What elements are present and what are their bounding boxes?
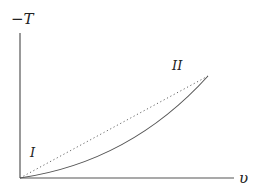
- y-axis-label: −T: [11, 10, 35, 28]
- point-label-II: II: [171, 58, 183, 73]
- point-label-I: I: [29, 145, 36, 160]
- thermodynamic-path-diagram: −T υ I II: [0, 0, 262, 187]
- dotted-straight-path: [20, 76, 208, 178]
- x-axis-label: υ: [239, 169, 248, 187]
